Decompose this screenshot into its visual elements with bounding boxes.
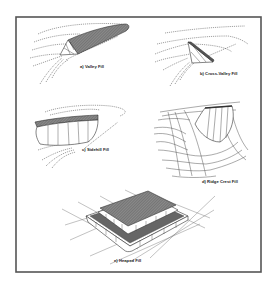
valley-fill-top bbox=[68, 24, 129, 54]
label-ridge-crest-fill: d) Ridge Crest Fill bbox=[202, 179, 238, 184]
fill-types-diagram: a) Valley Fill b) Cross-Valley Fill bbox=[0, 0, 275, 286]
label-valley-fill: a) Valley Fill bbox=[80, 64, 104, 69]
panel-ridge-crest-fill: d) Ridge Crest Fill bbox=[154, 102, 248, 184]
panel-cross-valley-fill: b) Cross-Valley Fill bbox=[155, 26, 248, 86]
label-cross-valley-fill: b) Cross-Valley Fill bbox=[200, 71, 237, 76]
panel-sidehill-fill: c) Sidehill Fill bbox=[35, 105, 125, 168]
panel-heaped-fill: e) Heaped Fill bbox=[62, 190, 215, 264]
panel-valley-fill: a) Valley Fill bbox=[30, 23, 129, 84]
label-heaped-fill: e) Heaped Fill bbox=[114, 258, 141, 263]
label-sidehill-fill: c) Sidehill Fill bbox=[82, 147, 109, 152]
